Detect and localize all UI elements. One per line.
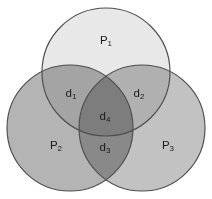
- venn-diagram-canvas: P1 P2 P3 d1 d2 d4 d3: [0, 0, 212, 199]
- venn-diagram-figure: P1 P2 P3 d1 d2 d4 d3: [0, 0, 212, 199]
